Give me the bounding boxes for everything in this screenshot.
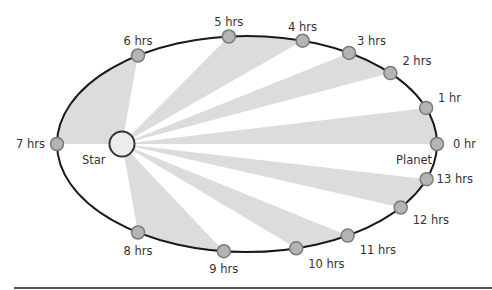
orbit-diagram: Star Planet 0 hr1 hr2 hrs3 hrs4 hrs5 hrs…	[0, 0, 492, 290]
planet-position-marker	[290, 242, 303, 255]
planet-position-marker	[384, 67, 397, 80]
star-label: Star	[82, 153, 106, 167]
time-label: 8 hrs	[124, 244, 153, 258]
time-label: 1 hr	[438, 91, 461, 105]
time-label: 0 hr	[453, 137, 476, 151]
planet-position-marker	[217, 245, 230, 258]
planet-position-marker	[222, 30, 235, 43]
planet-position-marker	[296, 34, 309, 47]
time-label: 3 hrs	[357, 34, 386, 48]
time-label: 12 hrs	[413, 213, 449, 227]
swept-area-wedge	[57, 56, 138, 145]
time-label: 11 hrs	[360, 243, 396, 257]
planet-position-marker	[343, 46, 356, 59]
time-label: 7 hrs	[16, 137, 45, 151]
planet-position-marker	[132, 226, 145, 239]
time-label: 4 hrs	[288, 20, 317, 34]
time-label: 9 hrs	[209, 262, 238, 276]
planet-position-marker	[51, 138, 64, 151]
time-label: 6 hrs	[124, 34, 153, 48]
time-label: 5 hrs	[214, 15, 243, 29]
planet-position-marker	[420, 173, 433, 186]
time-label: 10 hrs	[308, 257, 344, 271]
planet-position-marker	[420, 101, 433, 114]
planet-position-marker	[394, 201, 407, 214]
planet-position-marker	[431, 138, 444, 151]
planet-position-marker	[132, 49, 145, 62]
time-label: 13 hrs	[437, 172, 473, 186]
star-icon	[110, 132, 135, 157]
planet-label: Planet	[396, 153, 433, 167]
planet-position-marker	[341, 229, 354, 242]
time-label: 2 hrs	[402, 54, 431, 68]
